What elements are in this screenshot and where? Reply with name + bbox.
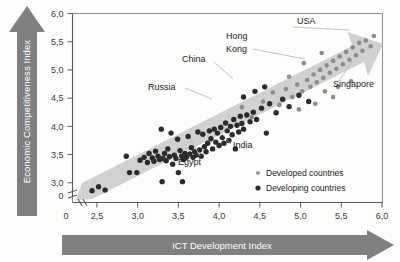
label-china: China — [182, 54, 206, 64]
data-point — [318, 68, 323, 73]
data-point — [236, 129, 241, 134]
data-point — [218, 125, 223, 130]
data-point — [368, 44, 373, 49]
data-point — [347, 57, 352, 62]
data-point — [357, 41, 362, 46]
data-point — [308, 85, 313, 90]
y-tick-label: 0 — [58, 191, 63, 201]
label-egypt: Egypt — [178, 157, 202, 167]
data-point — [319, 51, 324, 56]
data-point — [313, 101, 318, 106]
data-point — [162, 151, 167, 156]
data-point — [221, 141, 226, 146]
data-point — [354, 53, 359, 58]
data-point — [145, 160, 150, 165]
data-point — [300, 89, 305, 94]
legend-label-developed: Developed countries — [266, 168, 344, 178]
leader-russia — [185, 88, 212, 99]
data-point — [180, 179, 185, 184]
data-point — [170, 161, 175, 166]
data-point — [102, 187, 107, 192]
data-point — [151, 159, 156, 164]
x-tick-label: 3,0 — [131, 211, 144, 221]
data-point — [321, 76, 326, 81]
data-point — [127, 170, 132, 175]
data-point — [89, 188, 94, 193]
data-point — [328, 70, 333, 75]
data-point — [350, 45, 355, 50]
data-point — [306, 99, 311, 104]
data-point — [267, 101, 272, 106]
label-singapore: Singapore — [333, 79, 374, 89]
data-point — [302, 61, 307, 66]
data-point — [337, 54, 342, 59]
x-tick-label: 4,5 — [254, 211, 267, 221]
y-axis: 6,05,55,04,54,03,53,00 — [51, 9, 77, 202]
data-point — [96, 184, 101, 189]
x-axis: 02,53,03,54,04,55,05,56,0 — [63, 199, 388, 221]
data-point — [244, 112, 249, 117]
data-point — [207, 128, 212, 133]
data-point — [262, 84, 267, 89]
data-point — [331, 59, 336, 64]
data-point — [296, 93, 301, 98]
legend-marker-developed — [256, 171, 260, 175]
data-point — [231, 117, 236, 122]
chart-figure: Economic Competitiveness Index ICT Devel… — [0, 0, 400, 262]
label-hong-kong-line1: Hong — [226, 31, 248, 41]
data-point — [297, 107, 302, 112]
data-point — [241, 126, 246, 131]
data-point — [239, 121, 244, 126]
data-point — [153, 148, 158, 153]
data-point — [203, 149, 208, 154]
data-point — [234, 123, 239, 128]
data-point — [134, 170, 139, 175]
data-point — [249, 115, 254, 120]
data-point — [295, 82, 300, 87]
data-point — [334, 66, 339, 71]
data-point — [141, 155, 146, 160]
data-point — [324, 63, 329, 68]
data-point — [287, 74, 292, 79]
data-point — [251, 110, 256, 115]
data-point — [240, 105, 245, 110]
data-point — [277, 103, 282, 108]
data-point — [323, 89, 328, 94]
label-hong-kong-line2: Kong — [226, 44, 247, 54]
data-point — [229, 132, 234, 137]
data-point — [372, 34, 377, 39]
data-point — [200, 132, 205, 137]
label-india: India — [233, 140, 253, 150]
data-point — [175, 137, 180, 142]
data-point — [223, 120, 228, 125]
x-tick-label: 5,5 — [335, 211, 348, 221]
data-point — [284, 87, 289, 92]
data-point — [254, 117, 259, 122]
data-point — [216, 143, 221, 148]
data-point — [259, 106, 264, 111]
data-point — [286, 104, 291, 109]
y-tick-label: 3,5 — [51, 150, 64, 160]
data-point — [159, 126, 164, 131]
x-tick-label: 5,0 — [294, 211, 307, 221]
data-point — [167, 154, 172, 159]
data-point — [159, 179, 164, 184]
x-tick-label: 0 — [63, 211, 68, 221]
legend: Developed countries Developing countries — [255, 168, 345, 193]
data-point — [205, 141, 210, 146]
data-point — [238, 113, 243, 118]
leader-china — [214, 62, 233, 79]
data-point — [210, 146, 215, 151]
data-point — [241, 94, 246, 99]
x-tick-label: 2,5 — [91, 211, 104, 221]
legend-marker-developing — [255, 185, 260, 190]
data-point — [225, 128, 230, 133]
x-tick-label: 6,0 — [376, 211, 389, 221]
data-point — [226, 138, 231, 143]
data-point — [271, 90, 276, 95]
data-point — [177, 148, 182, 153]
data-point — [228, 124, 233, 129]
data-point — [311, 72, 316, 77]
label-usa: USA — [297, 16, 316, 26]
x-tick-label: 4,0 — [213, 211, 226, 221]
